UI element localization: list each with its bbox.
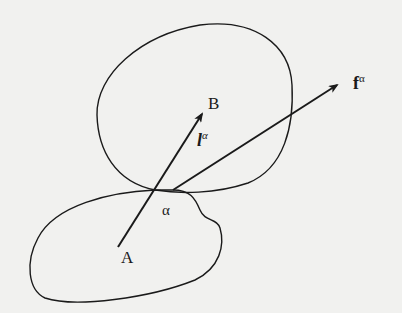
label-A: A [121,249,133,266]
diagram-canvas: B lα fα α A [0,0,402,313]
label-B: B [208,95,219,112]
lower-particle-outline [30,190,222,302]
upper-particle-outline [97,24,292,193]
label-f-superscript: α [359,72,365,84]
diagram-svg [0,0,402,313]
label-f-alpha: fα [353,73,365,92]
label-alpha-contact: α [162,203,170,218]
label-l-superscript: α [202,129,208,141]
label-l-alpha: lα [197,130,208,149]
